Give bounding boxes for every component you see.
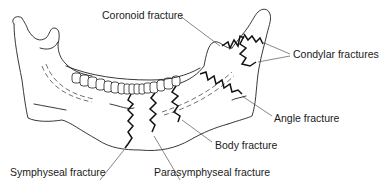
parasymphyseal-fracture-label: Parasymphyseal fracture (154, 166, 270, 178)
condylar-fractures-label: Condylar fractures (293, 48, 379, 60)
angle-fracture-label: Angle fracture (274, 112, 340, 124)
symphyseal-fracture-line (125, 94, 133, 148)
body-fracture-line (172, 86, 180, 122)
condylar-leader-upper (262, 42, 290, 54)
mandible-diagram: Coronoid fracture Condylar fractures Ang… (0, 0, 386, 186)
coronoid-fracture-label: Coronoid fracture (102, 9, 183, 21)
parasymphyseal-fracture-line (150, 93, 156, 132)
condylar-fracture-line (244, 34, 263, 44)
body-fracture-label: Body fracture (215, 139, 278, 151)
angle-fracture-line (200, 72, 242, 94)
symphyseal-fracture-label: Symphyseal fracture (10, 166, 106, 178)
angle-leader (242, 96, 272, 116)
coronoid-leader (180, 16, 220, 46)
teeth-row (72, 73, 180, 94)
condylar-leader-lower (258, 56, 290, 62)
